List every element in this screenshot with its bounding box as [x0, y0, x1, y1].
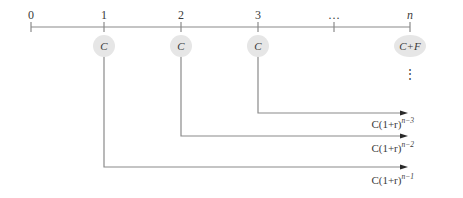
vertical-ellipsis: ⋮ — [404, 67, 416, 81]
arrowhead-icon — [400, 164, 408, 169]
compounding-arrow — [181, 56, 402, 136]
tick-label: … — [328, 8, 340, 22]
arrowhead-icon — [400, 133, 408, 138]
future-value-label: C(1+r)n−2 — [371, 140, 414, 155]
timeline-diagram: 0123…n C(1+r)n−3C(1+r)n−2C(1+r)n−1 CCCC+… — [0, 0, 463, 198]
tick-label: 1 — [101, 8, 107, 22]
future-value-label: C(1+r)n−3 — [371, 116, 414, 131]
cashflow-label: C+F — [399, 40, 421, 52]
tick-label: 3 — [255, 8, 261, 22]
tick-label: 0 — [28, 8, 34, 22]
compounding-arrow — [104, 56, 402, 167]
cashflow-label: C — [177, 40, 185, 52]
arrowhead-icon — [400, 110, 408, 115]
tick-label: n — [407, 8, 413, 22]
cashflow-label: C — [100, 40, 108, 52]
cashflow-label: C — [254, 40, 262, 52]
compounding-arrow — [258, 56, 402, 113]
future-value-label: C(1+r)n−1 — [371, 172, 414, 187]
tick-label: 2 — [178, 8, 184, 22]
